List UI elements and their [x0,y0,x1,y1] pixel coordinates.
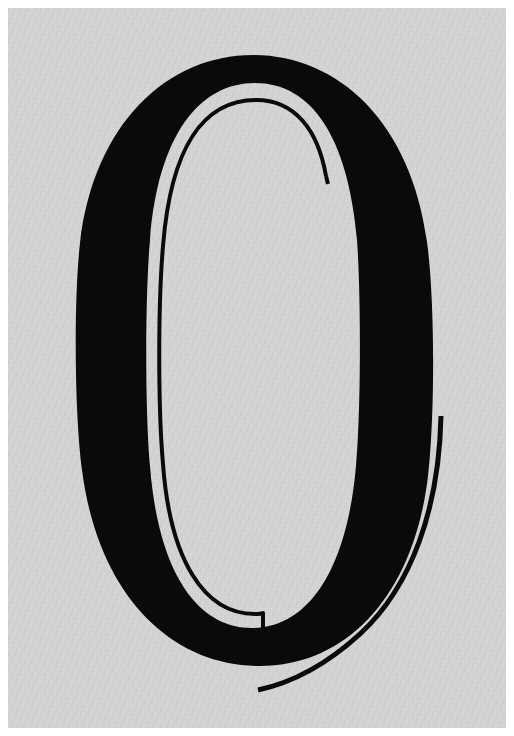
ornamental-letter-glyph [8,8,506,728]
letterform-plate: Q Ornamental Capital Letter decorative d… [0,0,514,736]
inner-hairline-stroke [159,100,326,652]
paper-field [8,8,506,728]
outer-bowl-shape [76,55,433,666]
inner-hairline-upper-terminal [326,176,328,184]
